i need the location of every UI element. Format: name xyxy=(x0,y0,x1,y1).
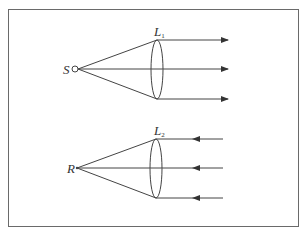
lens-l1-label: L1 xyxy=(154,25,165,40)
diverging-ray-upper xyxy=(78,40,157,69)
point-source-icon xyxy=(72,66,78,72)
arrow-left-icon xyxy=(192,195,200,201)
converging-ray-lower xyxy=(77,168,156,198)
top-panel xyxy=(72,40,228,99)
point-r-label: R xyxy=(67,162,75,175)
arrow-left-icon xyxy=(192,136,200,142)
diverging-ray-lower xyxy=(78,69,157,99)
lens-l2-label: L2 xyxy=(154,124,165,139)
source-label: S xyxy=(63,63,70,76)
focus-point-icon xyxy=(76,167,78,169)
converging-ray-upper xyxy=(77,139,156,168)
bottom-panel xyxy=(76,136,223,201)
arrow-left-icon xyxy=(192,165,200,171)
